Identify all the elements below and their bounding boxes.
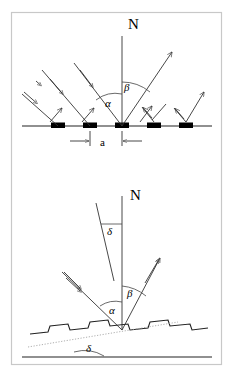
top-panel: N α β — [22, 16, 212, 148]
alpha-label-bottom: α — [109, 304, 115, 316]
beta-label-top: β — [123, 81, 130, 93]
figure-border — [12, 13, 222, 365]
scatterer-box — [51, 123, 65, 129]
incident-ray-arrowhead — [50, 79, 62, 93]
figure-root: N α β — [0, 0, 233, 375]
scatterer-box — [83, 123, 97, 129]
scattered-ray-arrowhead — [175, 109, 184, 120]
incident-ray-arrowhead-bottom — [64, 272, 80, 288]
normal-label-top: N — [128, 16, 139, 32]
scattered-ray-right — [186, 92, 204, 122]
delta-label-top: δ — [107, 225, 113, 237]
tilted-normal-line — [96, 203, 114, 281]
physics-diagram: N α β — [0, 0, 233, 375]
scattered-ray-right — [152, 104, 166, 120]
scattered-ray-main — [122, 52, 172, 126]
incident-ray — [74, 63, 122, 126]
scattered-stub — [82, 108, 94, 122]
reflected-ray-arrowhead — [145, 261, 158, 283]
scatterer-box — [147, 123, 161, 129]
scatterer-box — [179, 123, 193, 129]
bottom-panel: N δ α β δ — [22, 187, 212, 357]
alpha-label-top: α — [105, 97, 111, 109]
incident-ray-arrowhead-bottom — [66, 278, 80, 291]
incident-ray-arrowhead — [36, 81, 40, 85]
normal-label-bottom: N — [130, 187, 141, 203]
incident-ray-arrowhead — [80, 70, 92, 86]
beta-label-bottom: β — [126, 287, 133, 299]
scattered-ray-right — [140, 106, 152, 122]
delta-label-bottom: δ — [86, 342, 92, 354]
incident-ray — [22, 94, 58, 126]
period-label: a — [100, 136, 105, 148]
scattered-stub — [50, 108, 62, 122]
